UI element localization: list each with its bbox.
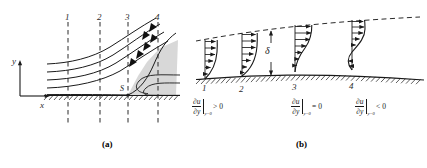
panel-a-label: (a) [102,140,113,149]
station-label-b-2: 2 [239,85,244,94]
velocity-profile-2 [242,33,257,76]
condition-2-denominator: ∂y [291,108,300,116]
condition-3-numerator: ∂u [355,98,364,106]
panel-b-label: (b) [296,140,307,149]
boundary-layer-thickness-label: δ [265,46,270,56]
station-label-b-1: 1 [202,84,207,93]
station-label-b-4: 4 [349,82,354,91]
velocity-profile-4 [348,20,365,70]
station-label-b-3: 3 [292,83,297,92]
condition-1-subscript: y=0 [204,111,211,116]
condition-2-relation: = 0 [312,102,322,111]
station-label-a-1: 1 [65,13,70,22]
separation-point-label: S [120,85,124,93]
condition-3-subscript: y=0 [367,111,374,116]
wall-hatching-b [196,75,421,84]
axis-y-arrow [18,60,22,65]
panel-b-group [196,17,424,84]
condition-2-numerator: ∂u [291,98,300,106]
condition-1-numerator: ∂u [192,98,201,106]
axis-label-x: x [40,101,44,110]
condition-3-relation: < 0 [376,102,386,111]
wall-gradient-condition-1: ∂u ∂y y=0 > 0 [192,98,223,115]
velocity-profile-1 [205,40,217,79]
condition-2-subscript: y=0 [303,111,310,116]
axes-xy [20,63,47,96]
boundary-layer-edge-dashed [196,17,420,41]
condition-3-denominator: ∂y [355,108,364,116]
station-label-a-3: 3 [125,13,130,22]
wall-gradient-condition-3: ∂u ∂y y=0 < 0 [355,98,386,115]
velocity-profile-3 [295,25,312,72]
wall-gradient-condition-2: ∂u ∂y y=0 = 0 [291,98,322,115]
condition-1-relation: > 0 [213,102,223,111]
separation-region-shading [128,40,178,95]
figure-boundary-layer-separation: 1 2 3 4 y x S (a) 1 2 3 4 δ ∂u ∂y y=0 > … [0,0,427,168]
axis-label-y: y [12,57,16,66]
station-label-a-4: 4 [155,13,160,22]
station-label-a-2: 2 [97,13,102,22]
condition-1-denominator: ∂y [192,108,201,116]
figure-drawing [0,0,427,168]
